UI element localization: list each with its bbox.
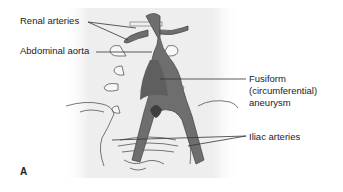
label-fusiform: Fusiform <box>249 73 286 85</box>
label-abdominal-aorta: Abdominal aorta <box>20 45 89 57</box>
label-renal-arteries: Renal arteries <box>20 15 79 27</box>
aneurysm-diagram: Renal arteries Abdominal aorta Fusiform … <box>0 0 343 192</box>
label-iliac-arteries: Iliac arteries <box>249 131 300 143</box>
panel-letter: A <box>20 166 27 177</box>
label-circumferential: (circumferential) <box>249 85 317 97</box>
label-aneurysm: aneurysm <box>249 97 291 109</box>
